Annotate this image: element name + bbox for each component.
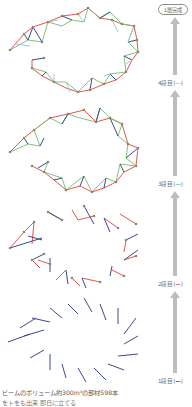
stage-3-label: 3段目(—) <box>158 180 183 188</box>
stage-1-label: 1段目(—) <box>158 377 183 385</box>
caption: ビームのボリューム約300m³の部材598本 <box>2 388 118 397</box>
paren-close: ) <box>181 80 183 86</box>
paren-close: ) <box>181 281 183 287</box>
ring-stage-1 <box>0 298 145 386</box>
ring-stage-4-graphic <box>0 2 145 100</box>
paren-close: ) <box>181 181 183 187</box>
arrow-up-icon <box>170 291 180 373</box>
stage-2-label-text: 2段目 <box>158 281 173 287</box>
arrow-up-icon <box>170 90 180 176</box>
stage-3-label-text: 3段目 <box>158 181 173 187</box>
paren-close: ) <box>181 378 183 384</box>
completion-badge: 1層完成 <box>158 4 188 15</box>
ring-stage-1-graphic <box>0 298 145 386</box>
stage-2-label: 2段目(—) <box>158 280 183 288</box>
arrow-up-icon <box>170 17 180 75</box>
caption-line-2: をトをも出来 即日に立てる <box>2 398 76 407</box>
stage-4-label-text: 4段目 <box>158 80 173 86</box>
stage-4-label: 4段目(—) <box>158 79 183 87</box>
ring-stage-2 <box>0 198 145 288</box>
ring-stage-4 <box>0 2 145 100</box>
ring-stage-3 <box>0 102 145 197</box>
ring-stage-3-graphic <box>0 102 145 197</box>
ring-stage-2-graphic <box>0 198 145 288</box>
stage-1-label-text: 1段目 <box>158 378 173 384</box>
arrow-up-icon <box>170 191 180 276</box>
